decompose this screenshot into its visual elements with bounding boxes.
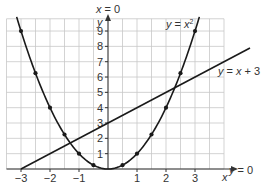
parabola-point — [135, 152, 139, 156]
parabola-point — [62, 132, 66, 136]
parabola-point — [91, 163, 95, 167]
y-tick-label: 6 — [97, 71, 103, 83]
parabola-point — [149, 132, 153, 136]
x-tick-label: −3 — [15, 172, 28, 184]
x-tick-label: −1 — [73, 172, 86, 184]
x-tick-label: 1 — [134, 172, 140, 184]
parabola-point — [19, 29, 23, 33]
line-y-equals-x-plus-3 — [21, 48, 250, 169]
x-axis-equation-label: y = 0 — [228, 164, 253, 176]
y-tick-label: 7 — [97, 56, 103, 68]
y-tick-label: 8 — [97, 40, 103, 52]
plot-series — [17, 17, 250, 169]
x-axis-variable-label: x — [221, 171, 228, 183]
parabola-point — [164, 106, 168, 110]
parabola-point — [77, 152, 81, 156]
parabola-point — [33, 71, 37, 75]
parabola-point — [48, 106, 52, 110]
labels: x = 0 y x y = 0 y = x2 y = x + 3 — [95, 3, 260, 183]
line-label: y = x + 3 — [217, 65, 260, 77]
y-tick-label: 4 — [97, 102, 103, 114]
y-axis-equation-label: x = 0 — [95, 3, 120, 15]
parabola-point — [178, 71, 182, 75]
x-tick-label: 3 — [192, 172, 198, 184]
chart: −3−2−1123123456789 x = 0 y x y = 0 y = x… — [0, 0, 262, 184]
y-tick-label: 2 — [97, 132, 103, 144]
parabola-label: y = x2 — [165, 18, 194, 30]
parabola-point — [193, 29, 197, 33]
y-axis-arrow-icon — [105, 14, 111, 21]
y-tick-label: 5 — [97, 86, 103, 98]
parabola-point — [120, 163, 124, 167]
x-tick-label: −2 — [44, 172, 57, 184]
y-tick-label: 1 — [97, 148, 103, 160]
x-tick-label: 2 — [163, 172, 169, 184]
